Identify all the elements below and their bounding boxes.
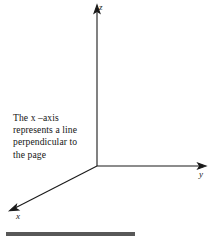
footer-rule-bar xyxy=(6,232,135,236)
coordinate-axes-figure: z y x The x –axis represents a line perp… xyxy=(0,0,213,246)
caption-line-1: The x –axis xyxy=(13,112,95,124)
z-axis-label: z xyxy=(99,3,103,12)
x-axis-arrowhead xyxy=(10,205,19,211)
x-axis-label: x xyxy=(16,212,20,221)
x-axis-line xyxy=(15,166,97,208)
caption-line-3: perpendicular to xyxy=(13,136,95,148)
caption-line-2: represents a line xyxy=(13,124,95,136)
caption-text-block: The x –axis represents a line perpendicu… xyxy=(13,112,95,161)
y-axis-label: y xyxy=(199,170,203,179)
caption-line-4: the page xyxy=(13,149,95,161)
